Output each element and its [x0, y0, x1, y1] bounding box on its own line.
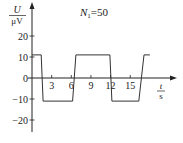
- chart-title: N1=50: [79, 6, 109, 20]
- y-axis-label: U μV: [9, 4, 26, 26]
- y-tick-label: 20: [18, 31, 28, 42]
- x-tick-label: 15: [125, 80, 135, 91]
- y-tick-label: −20: [12, 115, 28, 126]
- x-ticks: 3691215: [49, 75, 135, 91]
- x-label-denominator: s: [159, 91, 163, 101]
- square-wave-chart: 20100−10−20 3691215 U μV t s N1=50: [0, 0, 183, 143]
- title-rest: =50: [91, 6, 109, 18]
- y-label-denominator: μV: [11, 16, 23, 26]
- y-axis-arrow-icon: [30, 2, 35, 9]
- y-tick-label: 0: [23, 73, 28, 84]
- y-label-numerator: U: [13, 4, 21, 15]
- x-label-numerator: t: [160, 81, 163, 91]
- y-tick-label: −10: [12, 94, 28, 105]
- x-axis-arrow-icon: [170, 76, 177, 81]
- y-tick-label: 10: [18, 52, 28, 63]
- x-tick-label: 3: [49, 80, 54, 91]
- x-axis-label: t s: [157, 81, 165, 101]
- x-tick-label: 9: [88, 80, 93, 91]
